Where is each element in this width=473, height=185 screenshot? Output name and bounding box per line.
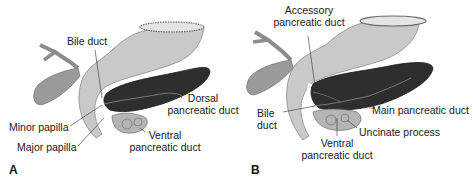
label-ventral-line1: Ventral <box>128 129 202 141</box>
label-ventral-pancreatic-duct-b: Ventral pancreatic duct <box>299 137 375 161</box>
panel-b: Accessory pancreatic duct Bile duct Main… <box>233 0 473 185</box>
label-ventral-b-line2: pancreatic duct <box>299 149 375 161</box>
panel-letter-b: B <box>251 163 260 177</box>
panel-a: Bile duct Dorsal pancreatic duct Minor p… <box>0 0 240 185</box>
label-dorsal-pancreatic-duct: Dorsal pancreatic duct <box>167 92 239 116</box>
label-accessory-line2: pancreatic duct <box>269 16 349 28</box>
label-ventral-b-line1: Ventral <box>299 137 375 149</box>
label-bile-line1: Bile <box>257 107 277 119</box>
label-minor-papilla: Minor papilla <box>9 121 69 133</box>
label-major-papilla: Major papilla <box>17 141 77 153</box>
label-ventral-pancreatic-duct: Ventral pancreatic duct <box>128 129 202 153</box>
label-ventral-line2: pancreatic duct <box>128 141 202 153</box>
label-main-pancreatic-duct: Main pancreatic duct <box>372 104 469 116</box>
label-accessory-pancreatic-duct: Accessory pancreatic duct <box>269 4 349 28</box>
label-accessory-line1: Accessory <box>269 4 349 16</box>
label-dorsal-line1: Dorsal <box>167 92 239 104</box>
panel-letter-a: A <box>9 163 18 177</box>
label-dorsal-line2: pancreatic duct <box>167 104 239 116</box>
label-bile-duct-b: Bile duct <box>257 107 277 131</box>
label-bile-duct: Bile duct <box>67 35 107 47</box>
label-bile-line2: duct <box>257 119 277 131</box>
